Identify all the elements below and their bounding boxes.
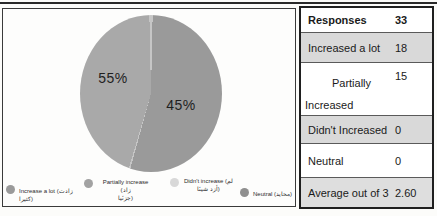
legend-label-line2: أزد شيئا) [183, 185, 234, 193]
legend-label: Partially increase (زاد [103, 179, 149, 193]
row-label: Increased a lot [301, 42, 395, 54]
pie-label-right: 45% [161, 97, 201, 113]
table-row-average: Average out of 3 2.60 [301, 178, 432, 207]
table-header-label: Responses [301, 14, 395, 26]
pie-chart [80, 15, 222, 172]
table-header-value: 33 [395, 14, 432, 26]
legend-label: Neutral (محايد) [253, 191, 292, 197]
table-row-didnt-increased: Didn't Increased 0 [301, 116, 432, 144]
legend-bullet-increase-a-lot-icon [6, 185, 15, 194]
table-row-partially-increased: Partially Increased 15 [301, 63, 432, 116]
row-value: 2.60 [395, 187, 432, 199]
legend-item-partially-increase: Partially increase (زاد جزئيا) [84, 178, 154, 202]
legend-item-didnt-increase: Didn't increase (لم أزد شيئا) [170, 177, 234, 193]
top-rule [0, 2, 437, 4]
row-value: 0 [395, 155, 432, 167]
pie-label-left: 55% [93, 70, 133, 86]
table-row-neutral: Neutral 0 [301, 144, 432, 178]
legend-bullet-didnt-increase-icon [170, 178, 179, 187]
scanned-survey-report: 55% 45% Increase a lot (زادت كثيرا) Part… [0, 0, 437, 216]
row-label: Partially Increased [301, 63, 395, 111]
row-label-line2: Increased [305, 99, 395, 111]
legend-bullet-neutral-icon [240, 188, 249, 197]
row-label: Neutral [301, 155, 395, 167]
row-value: 18 [395, 42, 432, 54]
row-value: 0 [395, 124, 432, 136]
legend-bullet-partially-increase-icon [84, 179, 93, 188]
row-label: Average out of 3 [301, 187, 395, 199]
legend-label: Didn't increase (لم [184, 178, 233, 184]
table-row-increased-a-lot: Increased a lot 18 [301, 33, 432, 63]
row-label: Didn't Increased [301, 124, 395, 136]
row-label-line1: Partially [308, 77, 395, 89]
row-value: 15 [395, 63, 432, 82]
legend-item-increase-a-lot: Increase a lot (زادت كثيرا) [6, 185, 86, 203]
legend-label-line2: جزئيا) [97, 194, 154, 202]
responses-table: Responses 33 Increased a lot 18 Partiall… [299, 6, 434, 209]
table-header-row: Responses 33 [301, 8, 432, 33]
legend-item-neutral: Neutral (محايد) [240, 188, 292, 198]
legend-label: Increase a lot (زادت كثيرا) [19, 188, 73, 202]
